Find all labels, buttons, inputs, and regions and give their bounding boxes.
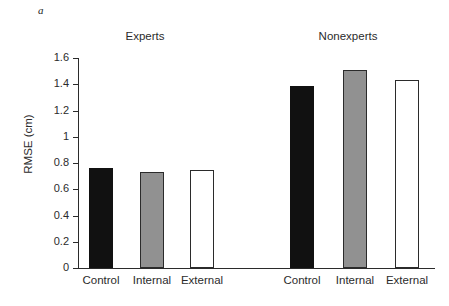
y-axis-title: RMSE (cm) — [22, 89, 34, 199]
bar-experts-external — [190, 170, 214, 268]
bar-experts-internal — [140, 172, 164, 268]
y-axis-tick-label: 1.6 — [54, 51, 69, 63]
y-axis-tick-label: 0.8 — [54, 156, 69, 168]
bar-nonexperts-internal — [343, 70, 367, 268]
x-tick-label-experts-external: External — [175, 274, 229, 286]
y-axis-tick-label: 1.2 — [54, 104, 69, 116]
x-axis-line — [78, 268, 435, 269]
y-axis-tick: 0.8 — [73, 163, 78, 164]
y-axis-tick: 1 — [73, 137, 78, 138]
y-axis-tick-label: 1.4 — [54, 77, 69, 89]
figure-panel-a: a Experts Nonexperts RMSE (cm) 1.61.41.2… — [0, 0, 449, 306]
x-tick-label-nonexperts-control: Control — [275, 274, 329, 286]
panel-letter-label: a — [38, 4, 44, 16]
y-axis-tick-label: 0.6 — [54, 182, 69, 194]
group-header-nonexperts: Nonexperts — [288, 30, 408, 42]
y-axis-tick-label: 0.2 — [54, 235, 69, 247]
bar-nonexperts-control — [290, 86, 314, 268]
y-axis-tick: 0.6 — [73, 189, 78, 190]
y-axis-tick: 0.4 — [73, 216, 78, 217]
y-axis-line — [78, 58, 79, 269]
y-axis-tick: 1.2 — [73, 111, 78, 112]
bar-nonexperts-external — [395, 80, 419, 268]
x-tick-label-nonexperts-internal: Internal — [328, 274, 382, 286]
x-tick-label-nonexperts-external: External — [380, 274, 434, 286]
x-tick-label-experts-internal: Internal — [125, 274, 179, 286]
y-axis-tick: 1.4 — [73, 84, 78, 85]
y-axis-tick: 0.2 — [73, 242, 78, 243]
y-axis-tick: 0 — [73, 268, 78, 269]
y-axis-tick-label: 0 — [63, 261, 69, 273]
plot-area: 1.61.41.210.80.60.40.20 — [78, 58, 435, 268]
y-axis-tick-label: 1 — [63, 130, 69, 142]
group-header-experts: Experts — [86, 30, 204, 42]
y-axis-tick: 1.6 — [73, 58, 78, 59]
y-axis-tick-label: 0.4 — [54, 209, 69, 221]
x-tick-label-experts-control: Control — [74, 274, 128, 286]
bar-experts-control — [89, 168, 113, 268]
